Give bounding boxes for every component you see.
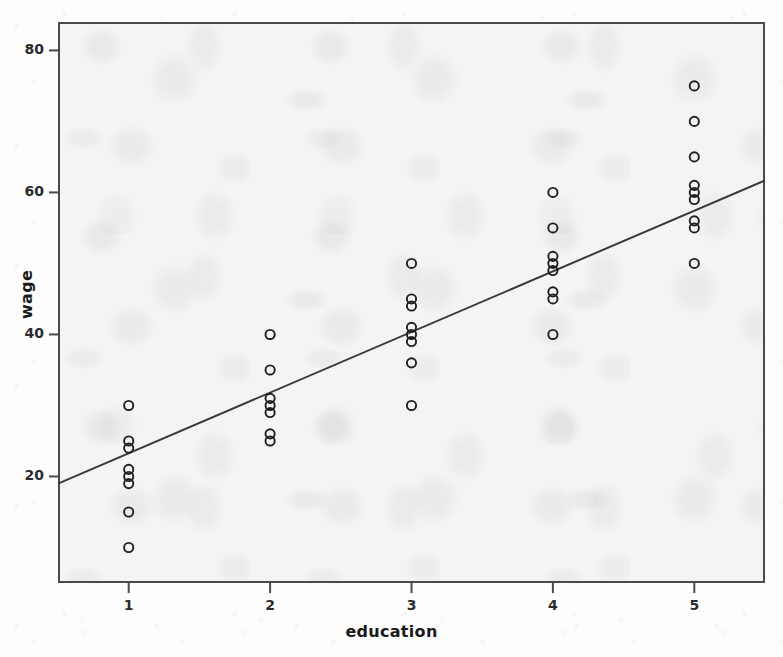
x-tick-label: 3 (382, 597, 442, 613)
x-tick-label: 4 (523, 597, 583, 613)
y-tick-label: 40 (0, 325, 44, 341)
y-axis-ticks (49, 50, 58, 476)
y-tick-label: 80 (0, 41, 44, 57)
scatterplot-figure: 20406080 12345 wage education (0, 0, 783, 657)
x-tick-label: 1 (99, 597, 159, 613)
x-axis-title: education (0, 622, 783, 641)
y-axis-title: wage (17, 265, 36, 325)
y-tick-label: 60 (0, 183, 44, 199)
x-tick-label: 5 (664, 597, 724, 613)
x-tick-label: 2 (240, 597, 300, 613)
x-axis-ticks (129, 583, 695, 593)
y-tick-label: 20 (0, 467, 44, 483)
plot-area (58, 22, 765, 583)
